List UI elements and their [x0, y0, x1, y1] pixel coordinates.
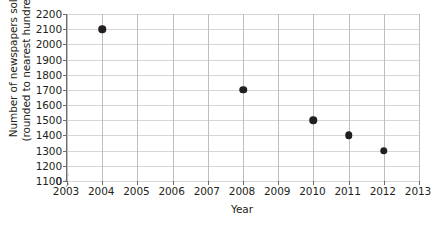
x-axis-tick-label: 2009 [257, 185, 297, 197]
y-axis-tick-label: 1600 [28, 100, 62, 110]
y-axis-tick-label: 1500 [28, 115, 62, 125]
x-axis-tick-label: 2003 [46, 185, 86, 197]
gridline-vertical [102, 14, 103, 181]
y-axis-tick-labels: 2200210020001900180017001600150014001300… [24, 0, 62, 200]
x-axis-tick-label: 2005 [116, 185, 156, 197]
gridline-vertical [278, 14, 279, 181]
gridline-vertical [173, 14, 174, 181]
data-point [239, 86, 247, 94]
x-axis-tick-label: 2008 [222, 185, 262, 197]
gridline-vertical [313, 14, 314, 181]
y-axis-tick-label: 2200 [28, 9, 62, 19]
gridline-vertical [243, 14, 244, 181]
gridline-vertical [419, 14, 420, 181]
gridline-vertical [67, 14, 68, 181]
data-point [345, 132, 353, 140]
x-axis-tick-label: 2006 [152, 185, 192, 197]
chart-title [66, 0, 418, 3]
x-axis-tick-label: 2012 [363, 185, 403, 197]
x-axis-tick-label: 2013 [398, 185, 438, 197]
x-axis-tick-label: 2010 [292, 185, 332, 197]
x-axis-tick-labels: 2003200420052006200720082009201020112012… [66, 185, 418, 199]
data-point [310, 117, 318, 125]
y-axis-tick-label: 1300 [28, 146, 62, 156]
x-axis-tick-label: 2011 [328, 185, 368, 197]
plot-area [66, 14, 419, 182]
y-axis-tick-label: 1900 [28, 55, 62, 65]
data-point [98, 25, 106, 33]
gridline-vertical [384, 14, 385, 181]
y-axis-tick-label: 1400 [28, 130, 62, 140]
x-axis-title: Year [66, 203, 418, 215]
y-axis-tick-label: 2100 [28, 24, 62, 34]
gridline-vertical [137, 14, 138, 181]
y-axis-tick-label: 1200 [28, 161, 62, 171]
gridline-vertical [208, 14, 209, 181]
x-axis-tick-label: 2004 [81, 185, 121, 197]
y-axis-tick-label: 1800 [28, 70, 62, 80]
scatter-chart: Number of newspapers sold (rounded to ne… [0, 0, 442, 226]
data-point [380, 147, 388, 155]
gridline-vertical [349, 14, 350, 181]
y-axis-title-line-1: Number of newspapers sold [7, 0, 20, 151]
y-axis-tick-label: 1700 [28, 85, 62, 95]
x-axis-tick-label: 2007 [187, 185, 227, 197]
y-axis-tick-label: 2000 [28, 39, 62, 49]
